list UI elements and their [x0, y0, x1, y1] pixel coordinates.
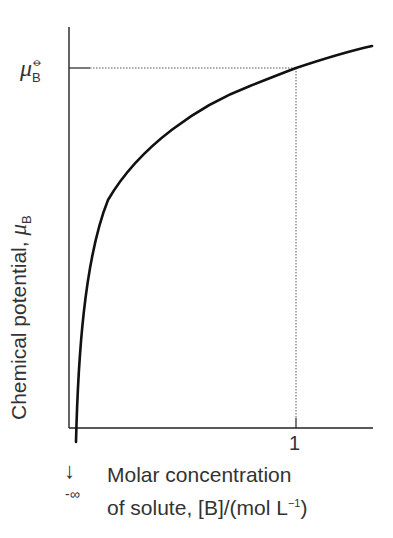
chart-canvas: [0, 0, 393, 538]
x-tick-label-one: 1: [289, 432, 300, 455]
arrow-down-icon: ↓: [64, 458, 75, 484]
chemical-potential-curve: [76, 46, 372, 442]
y-axis-label: Chemical potential, μB: [6, 215, 34, 420]
mu-standard-label: μB⦵: [20, 54, 43, 85]
negative-infinity-label: -∞: [65, 486, 80, 502]
x-axis-label: Molar concentration of solute, [B]/(mol …: [107, 460, 307, 522]
